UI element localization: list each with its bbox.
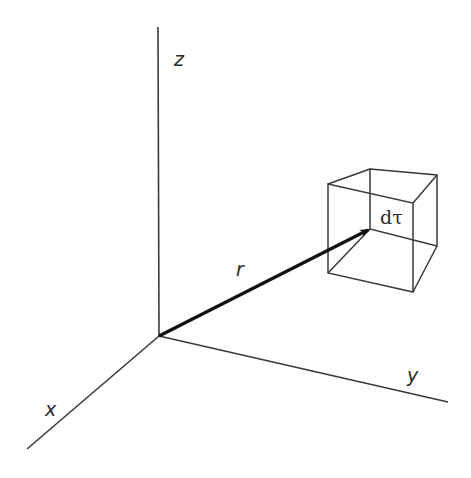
- y-axis-label: y: [407, 366, 418, 385]
- cube-edge: [413, 246, 437, 292]
- diagram-svg: [0, 0, 471, 478]
- z-axis-label: z: [174, 50, 184, 69]
- vector-r-label: r: [236, 260, 244, 279]
- y-axis: [159, 336, 448, 402]
- volume-element-label: dτ: [380, 208, 403, 227]
- position-vector-r: [159, 230, 368, 336]
- cube-edge: [328, 169, 370, 184]
- z-axis: [158, 27, 159, 336]
- cube-edge: [328, 229, 370, 273]
- x-axis: [27, 336, 159, 449]
- cube-edge: [413, 175, 437, 203]
- volume-element-cube: [328, 169, 437, 292]
- x-axis-label: x: [45, 400, 56, 419]
- diagram-canvas: z y x r dτ: [0, 0, 471, 478]
